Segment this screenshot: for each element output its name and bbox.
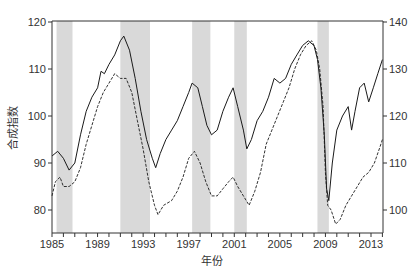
x-tick-label: 2009 [313, 238, 337, 250]
solid-series-line [52, 36, 382, 201]
recession-band [120, 21, 150, 233]
recession-bands [57, 21, 329, 233]
left-tick-label: 80 [34, 204, 46, 216]
right-tick-label: 110 [389, 157, 407, 169]
x-tick-label: 1997 [176, 238, 200, 250]
left-tick-label: 90 [34, 157, 46, 169]
right-tick-label: 120 [389, 110, 407, 122]
left-tick-label: 110 [28, 63, 46, 75]
left-tick-label: 120 [28, 16, 46, 28]
x-tick-label: 2013 [359, 238, 383, 250]
recession-band [234, 21, 247, 233]
x-axis-title: 年份 [201, 254, 223, 268]
right-tick-label: 100 [389, 204, 407, 216]
chart: 8090100110120100110120130140198519891993… [0, 0, 420, 277]
x-tick-label: 1985 [40, 238, 64, 250]
right-tick-label: 140 [389, 16, 407, 28]
x-tick-label: 1993 [131, 238, 155, 250]
x-tick-label: 1989 [85, 238, 109, 250]
left-tick-label: 100 [28, 110, 46, 122]
x-tick-label: 2001 [222, 238, 246, 250]
axes: 8090100110120100110120130140198519891993… [28, 16, 408, 250]
recession-band [57, 21, 73, 233]
right-tick-label: 130 [389, 63, 407, 75]
dashed-series-line [52, 41, 382, 224]
x-tick-label: 2005 [268, 238, 292, 250]
y-axis-title: 合成指数 [6, 106, 20, 150]
data-lines [52, 36, 382, 224]
